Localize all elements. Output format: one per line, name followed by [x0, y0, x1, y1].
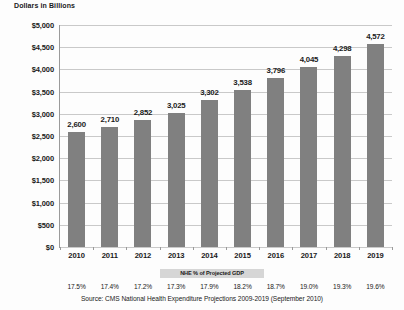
y-tick-label: $1,000 — [0, 199, 54, 208]
bar-slot: 2,852 — [126, 25, 159, 247]
x-tick-label: 2015 — [226, 251, 259, 260]
bar-value-label: 4,298 — [333, 44, 352, 53]
y-tick-label: $500 — [0, 221, 54, 230]
bar-slot: 3,025 — [160, 25, 193, 247]
y-tick-label: $3,000 — [0, 110, 54, 119]
bar-slot: 4,572 — [359, 25, 392, 247]
x-tick — [193, 247, 194, 250]
bar: 3,796 — [267, 78, 284, 247]
x-tick — [326, 247, 327, 250]
bar-value-label: 3,796 — [267, 66, 286, 75]
y-tick-label: $4,000 — [0, 65, 54, 74]
x-tick-label: 2019 — [359, 251, 392, 260]
bar-slot: 3,538 — [226, 25, 259, 247]
gdp-row-band: NHE % of Projected GDP — [160, 269, 264, 278]
gdp-percent-value: 19.0% — [292, 283, 325, 290]
x-tick — [259, 247, 260, 250]
gdp-percent-value: 19.6% — [359, 283, 392, 290]
gdp-percent-value: 17.9% — [193, 283, 226, 290]
y-tick-label: $2,500 — [0, 132, 54, 141]
bar: 4,298 — [334, 56, 351, 247]
bar: 3,302 — [201, 100, 218, 247]
gdp-percent-row: 17.5%17.4%17.2%17.3%17.9%18.2%18.7%19.0%… — [60, 283, 392, 294]
x-tick — [292, 247, 293, 250]
bar-value-label: 3,538 — [233, 78, 252, 87]
bar: 4,045 — [300, 67, 317, 247]
bar: 4,572 — [367, 44, 384, 247]
x-tick-label: 2016 — [259, 251, 292, 260]
bar-value-label: 4,572 — [366, 32, 385, 41]
bar-slot: 2,710 — [93, 25, 126, 247]
x-tick — [359, 247, 360, 250]
x-tick — [226, 247, 227, 250]
gdp-percent-value: 17.3% — [160, 283, 193, 290]
x-tick-label: 2010 — [60, 251, 93, 260]
x-tick-label: 2011 — [93, 251, 126, 260]
y-tick-label: $1,500 — [0, 176, 54, 185]
gdp-percent-value: 18.7% — [259, 283, 292, 290]
x-tick-label: 2018 — [326, 251, 359, 260]
gdp-percent-value: 17.4% — [93, 283, 126, 290]
y-tick-label: $2,000 — [0, 154, 54, 163]
y-tick-label: $4,500 — [0, 43, 54, 52]
y-axis-title: Dollars in Billions — [14, 1, 78, 10]
x-tick — [160, 247, 161, 250]
bar-value-label: 3,302 — [200, 88, 219, 97]
bar-value-label: 2,600 — [67, 120, 86, 129]
gdp-percent-value: 17.2% — [126, 283, 159, 290]
x-tick — [60, 247, 61, 250]
bar: 3,025 — [168, 113, 185, 247]
bar: 3,538 — [234, 90, 251, 247]
x-tick-label: 2017 — [292, 251, 325, 260]
source-note: Source: CMS National Health Expenditure … — [0, 295, 404, 302]
bar-slot: 2,600 — [60, 25, 93, 247]
bar-slot: 3,302 — [193, 25, 226, 247]
x-tick — [126, 247, 127, 250]
bar-slot: 4,298 — [326, 25, 359, 247]
x-tick-label: 2012 — [126, 251, 159, 260]
x-axis-labels: 2010201120122013201420152016201720182019 — [60, 251, 392, 263]
bar-value-label: 2,852 — [134, 108, 153, 117]
bar: 2,710 — [101, 127, 118, 247]
gdp-row-label: NHE % of Projected GDP — [160, 269, 264, 278]
x-tick — [392, 247, 393, 250]
x-tick-label: 2013 — [160, 251, 193, 260]
bar: 2,852 — [134, 120, 151, 247]
gdp-percent-value: 17.5% — [60, 283, 93, 290]
nhe-projection-bar-chart: Dollars in Billions 2,6002,7102,8523,025… — [0, 0, 404, 310]
y-tick-label: $3,500 — [0, 88, 54, 97]
y-tick-label: $5,000 — [0, 21, 54, 30]
bar: 2,600 — [68, 132, 85, 247]
plot-area: 2,6002,7102,8523,0253,3023,5383,7964,045… — [60, 25, 392, 247]
bar-slot: 4,045 — [292, 25, 325, 247]
y-tick-label: $0 — [0, 243, 54, 252]
x-tick — [93, 247, 94, 250]
bar-value-label: 3,025 — [167, 101, 186, 110]
bar-value-label: 4,045 — [300, 55, 319, 64]
gdp-percent-value: 18.2% — [226, 283, 259, 290]
bar-slot: 3,796 — [259, 25, 292, 247]
x-tick-label: 2014 — [193, 251, 226, 260]
gdp-percent-value: 19.3% — [326, 283, 359, 290]
bar-value-label: 2,710 — [101, 115, 120, 124]
